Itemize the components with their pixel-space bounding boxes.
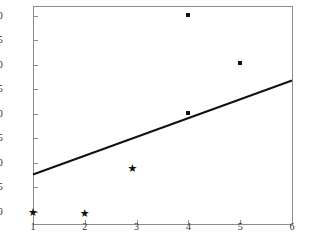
y-tick-label-1.5: 1.5 (0, 182, 3, 192)
x-tick-label-3: 3 (127, 222, 147, 232)
y-tick-label-5.0: 5.0 (0, 11, 3, 21)
y-tick-label-4.5: 4.5 (0, 35, 3, 45)
dot-marker (238, 61, 242, 65)
x-tick-label-6: 6 (282, 222, 302, 232)
dot-marker (186, 13, 190, 17)
scatter-plot-figure: ★★★ 1.01.52.02.53.03.54.04.55.0 123456 (0, 0, 309, 240)
y-tick-label-3.5: 3.5 (0, 84, 3, 94)
y-tick-label-2.0: 2.0 (0, 158, 3, 168)
x-tick-label-1: 1 (23, 222, 43, 232)
x-tick-label-2: 2 (75, 222, 95, 232)
star-marker: ★ (28, 207, 39, 218)
plot-area: ★★★ (33, 6, 293, 225)
regression-line (33, 80, 292, 174)
trend-line-layer (33, 6, 293, 225)
dot-marker (186, 111, 190, 115)
x-tick-label-4: 4 (178, 222, 198, 232)
x-tick-label-5: 5 (230, 222, 250, 232)
y-tick-label-1.0: 1.0 (0, 207, 3, 217)
y-tick-label-4.0: 4.0 (0, 60, 3, 70)
y-tick-label-2.5: 2.5 (0, 133, 3, 143)
y-tick-label-3.0: 3.0 (0, 109, 3, 119)
star-marker: ★ (127, 163, 138, 174)
star-marker: ★ (79, 208, 90, 219)
